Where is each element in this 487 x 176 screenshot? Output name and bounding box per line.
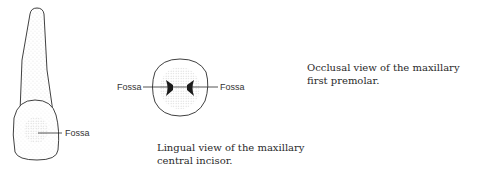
incisor-caption: Lingual view of the maxillary central in… [157, 141, 305, 167]
incisor-fossa-area [24, 117, 48, 143]
incisor-fossa-label: Fossa [65, 128, 90, 138]
incisor-caption-line2: central incisor. [157, 154, 305, 167]
incisor-caption-line1: Lingual view of the maxillary [157, 141, 305, 154]
premolar-drawing [143, 59, 218, 116]
premolar-fossa-label-left: Fossa [117, 82, 142, 92]
premolar-caption-line2: first premolar. [307, 74, 460, 87]
incisor-root [20, 8, 53, 112]
premolar-caption: Occlusal view of the maxillary first pre… [307, 61, 460, 87]
premolar-fossa-label-right: Fossa [220, 82, 245, 92]
incisor-drawing [13, 8, 62, 160]
premolar-caption-line1: Occlusal view of the maxillary [307, 61, 460, 74]
